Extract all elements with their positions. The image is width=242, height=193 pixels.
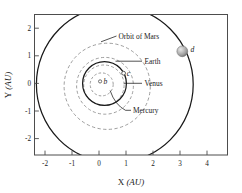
x-tick-label: -2 (42, 160, 48, 168)
y-tick-labels: 2 1 0 -1 -2 (25, 25, 31, 143)
label-venus: Venus (145, 79, 163, 88)
leader-orbit-of-mars (101, 36, 117, 42)
x-tick-marks (45, 151, 207, 155)
x-tick-labels: -2 -1 0 1 2 3 4 (42, 160, 209, 168)
planet-c-marker (122, 71, 126, 75)
planet-b-marker (99, 80, 102, 83)
label-orbit-of-mars: Orbit of Mars (119, 32, 160, 41)
y-tick-label: 2 (27, 25, 31, 33)
y-tick-label: -1 (25, 108, 31, 116)
x-tick-label: 0 (97, 160, 101, 168)
orbit-mars (64, 43, 150, 129)
y-tick-marks (35, 28, 39, 138)
plot-canvas: Orbit of Mars Earth Venus Mercury b c d (0, 0, 242, 193)
label-planet-b: b (103, 77, 107, 86)
planet-d-marker (177, 46, 188, 57)
x-tick-label: 2 (151, 160, 155, 168)
x-tick-label: 4 (205, 160, 209, 168)
y-tick-label: 1 (27, 52, 31, 60)
x-axis-title-unit: (AU) (126, 177, 144, 187)
leader-mercury (110, 91, 131, 111)
x-tick-label: -1 (69, 160, 75, 168)
y-axis-title-unit: (AU) (3, 72, 13, 90)
orbit-mercury (90, 73, 113, 96)
x-tick-label: 1 (124, 160, 128, 168)
x-tick-label: 3 (178, 160, 182, 168)
orbits-group (36, 6, 193, 163)
y-tick-label: -2 (25, 135, 31, 143)
y-axis-title: Y (AU) (3, 72, 13, 98)
orbit-planet-d (36, 6, 193, 163)
label-earth: Earth (145, 57, 161, 66)
label-planet-d: d (191, 45, 195, 54)
y-tick-label: 0 (27, 80, 31, 88)
label-mercury: Mercury (133, 106, 159, 115)
planet-markers-group (99, 46, 188, 83)
x-axis-title: X (AU) (118, 177, 145, 187)
orbital-diagram-figure: Orbit of Mars Earth Venus Mercury b c d (0, 0, 242, 193)
